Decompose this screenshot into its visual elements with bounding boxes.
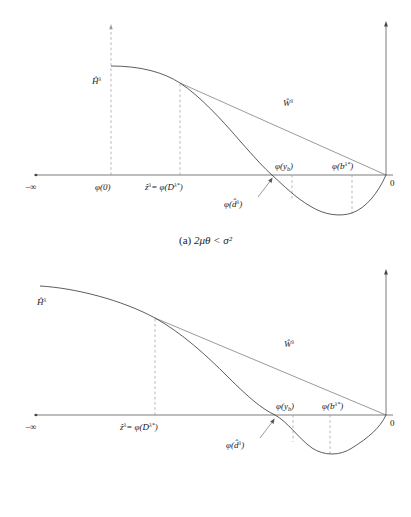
- label-phi-d-a: φ(d̂λ): [224, 198, 242, 209]
- label-minus-infinity-a: −∞: [25, 182, 37, 192]
- label-tangency-b: ẑλ= φ(Dλ*): [119, 421, 158, 432]
- label-origin-b: 0: [390, 418, 395, 428]
- svg-text:Ĥλ: Ĥλ: [36, 296, 47, 307]
- label-h-hat-b: Ĥλ: [36, 296, 47, 307]
- curve-h-hat-b: [40, 286, 386, 454]
- svg-text:φ(bλ*): φ(bλ*): [322, 400, 343, 411]
- svg-text:ẑλ= φ(Dλ*): ẑλ= φ(Dλ*): [144, 181, 183, 192]
- label-phi-yb-b: φ(yb): [276, 401, 294, 412]
- svg-text:ẑλ= φ(Dλ*): ẑλ= φ(Dλ*): [119, 421, 158, 432]
- phi-zero-gridline-a: [109, 24, 112, 175]
- svg-text:φ(d̂λ): φ(d̂λ): [226, 439, 244, 450]
- x-axis-b: [34, 414, 393, 417]
- svg-text:φ(d̂λ): φ(d̂λ): [224, 198, 242, 209]
- label-origin-a: 0: [390, 178, 395, 188]
- phi-d-pointer-b: [260, 419, 275, 438]
- svg-text:Ĥλ: Ĥλ: [91, 75, 102, 86]
- line-w-hat-b: [155, 318, 386, 415]
- label-w-hat-b: Ŵλ: [284, 338, 295, 349]
- caption-a: (a) 2μθ < σ²: [0, 234, 411, 246]
- svg-text:φ(yb): φ(yb): [275, 161, 293, 172]
- figure-page: Ĥλ Ŵλ −∞ φ(0) ẑλ= φ(Dλ*): [0, 0, 411, 517]
- label-phi-b-b: φ(bλ*): [322, 400, 343, 411]
- svg-text:Ŵλ: Ŵλ: [283, 97, 294, 108]
- label-tangency-a: ẑλ= φ(Dλ*): [144, 181, 183, 192]
- svg-text:φ(yb): φ(yb): [276, 401, 294, 412]
- label-phi-d-b: φ(d̂λ): [226, 439, 244, 450]
- subfigure-a: Ĥλ Ŵλ −∞ φ(0) ẑλ= φ(Dλ*): [0, 0, 411, 260]
- y-axis-b: [384, 269, 388, 415]
- x-axis-a: [34, 174, 393, 177]
- caption-a-expression: 2μθ < σ²: [194, 234, 232, 246]
- svg-text:Ŵλ: Ŵλ: [284, 338, 295, 349]
- label-phi-zero-a: φ(0): [95, 182, 110, 192]
- label-phi-b-a: φ(bλ*): [332, 160, 353, 171]
- caption-a-tag: (a): [179, 234, 191, 246]
- label-h-hat-a: Ĥλ: [91, 75, 102, 86]
- y-axis-a: [384, 21, 388, 175]
- label-minus-infinity-b: −∞: [25, 422, 37, 432]
- label-w-hat-a: Ŵλ: [283, 97, 294, 108]
- label-phi-yb-a: φ(yb): [275, 161, 293, 172]
- subfigure-b: Ĥλ Ŵλ −∞ ẑλ= φ(Dλ*) φ(yb): [0, 258, 411, 517]
- svg-text:φ(bλ*): φ(bλ*): [332, 160, 353, 171]
- curve-h-hat-a: [111, 66, 386, 215]
- plot-a: Ĥλ Ŵλ −∞ φ(0) ẑλ= φ(Dλ*): [0, 0, 411, 232]
- plot-b: Ĥλ Ŵλ −∞ ẑλ= φ(Dλ*) φ(yb): [0, 258, 411, 482]
- phi-d-pointer-a: [258, 178, 273, 197]
